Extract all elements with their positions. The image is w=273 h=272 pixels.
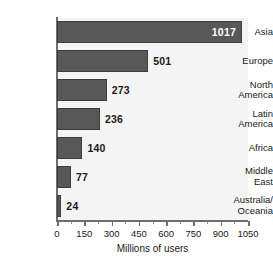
bar-value-label: 77 (76, 171, 88, 183)
tick-label: 1050 (237, 228, 258, 239)
tick-mark-minor (153, 221, 154, 224)
bar-row: 501 (57, 50, 248, 72)
tick-mark-major (57, 221, 59, 226)
bar-row: 1017 (57, 21, 248, 43)
tick-mark-major (193, 221, 195, 226)
tick-mark-minor (234, 221, 235, 224)
bar-row: 24 (57, 195, 248, 217)
bar-row: 236 (57, 108, 248, 130)
tick-mark-major (221, 221, 223, 226)
tick-mark-major (112, 221, 114, 226)
tick-mark-minor (207, 221, 208, 224)
tick-mark-minor (98, 221, 99, 224)
x-axis-title: Millions of users (57, 243, 248, 254)
tick-label: 900 (213, 228, 229, 239)
bar-row: 140 (57, 137, 248, 159)
bar-value-label: 140 (87, 142, 105, 154)
bar (57, 79, 107, 101)
tick-mark-minor (71, 221, 72, 224)
tick-label: 150 (76, 228, 92, 239)
bar-chart: AsiaEuropeNorth AmericaLatin AmericaAfri… (0, 0, 273, 272)
tick-mark-major (84, 221, 86, 226)
bar-value-label: 236 (105, 113, 123, 125)
tick-label: 0 (54, 228, 59, 239)
bar (57, 195, 61, 217)
bar (57, 108, 100, 130)
tick-mark-major (248, 221, 250, 226)
bar-value-label: 1017 (212, 26, 236, 38)
bar-value-label: 273 (112, 84, 130, 96)
tick-mark-minor (180, 221, 181, 224)
bar (57, 166, 71, 188)
bar-row: 77 (57, 166, 248, 188)
bar-value-label: 501 (153, 55, 171, 67)
tick-label: 450 (131, 228, 147, 239)
tick-mark-major (139, 221, 141, 226)
bar-value-label: 24 (66, 200, 78, 212)
tick-mark-minor (125, 221, 126, 224)
bar: 1017 (57, 21, 242, 43)
bar (57, 137, 82, 159)
tick-label: 600 (158, 228, 174, 239)
bar-row: 273 (57, 79, 248, 101)
tick-label: 750 (185, 228, 201, 239)
tick-label: 300 (104, 228, 120, 239)
tick-mark-major (166, 221, 168, 226)
bar (57, 50, 148, 72)
